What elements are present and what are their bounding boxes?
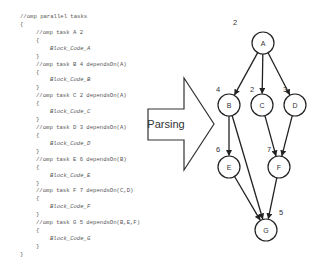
edge-a-to-b — [235, 53, 258, 95]
node-weight: 4 — [216, 85, 220, 94]
node-c: C2 — [250, 85, 273, 116]
node-label: A — [261, 40, 266, 47]
node-label: G — [263, 227, 268, 234]
node-e: E6 — [216, 145, 240, 178]
node-weight: 2 — [233, 18, 237, 27]
parsing-arrow: Parsing — [147, 78, 214, 170]
node-weight: 5 — [279, 208, 283, 217]
node-weight: 6 — [216, 145, 220, 154]
node-label: C — [259, 102, 264, 109]
node-weight: 3 — [283, 85, 287, 94]
node-b: B4 — [216, 85, 240, 116]
node-d: D3 — [283, 85, 306, 116]
node-label: D — [292, 102, 297, 109]
edge-d-to-f — [282, 116, 292, 156]
node-weight: 7 — [267, 145, 271, 154]
parsing-diagram: Parsing A2B4C2D3E6F7G5 — [0, 0, 323, 273]
edge-f-to-g — [268, 178, 276, 219]
node-a: A2 — [233, 18, 274, 54]
node-weight: 2 — [250, 85, 254, 94]
node-label: E — [227, 164, 232, 171]
node-f: F7 — [267, 145, 290, 178]
node-label: B — [227, 102, 232, 109]
node-label: F — [277, 164, 281, 171]
parsing-label: Parsing — [147, 118, 184, 130]
edge-a-to-c — [262, 54, 263, 94]
graph-edges — [229, 53, 292, 220]
